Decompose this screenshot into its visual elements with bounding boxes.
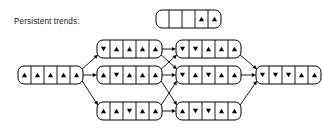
column2-middle-state[interactable] xyxy=(176,66,241,84)
diagram-title-label: Persistent trends: xyxy=(14,17,80,26)
edge-c1-bot-to-c2-bot xyxy=(162,109,176,113)
column1-top-state[interactable] xyxy=(97,40,162,58)
edge-start-to-c1-top xyxy=(82,55,98,69)
persistent-trends-diagram: Persistent trends: xyxy=(0,0,322,137)
legend-node[interactable] xyxy=(156,10,221,28)
edge-c2-mid-to-end xyxy=(241,73,256,77)
edge-c1-top-to-c2-top xyxy=(162,47,176,51)
column1-middle-state[interactable] xyxy=(97,66,162,84)
edge-start-to-c1-bot xyxy=(82,81,98,105)
edge-c2-bot-to-end xyxy=(240,81,257,105)
edge-c2-top-to-end xyxy=(240,55,257,69)
final-state[interactable] xyxy=(256,66,321,84)
column2-bottom-state[interactable] xyxy=(176,102,241,120)
column1-bottom-state[interactable] xyxy=(97,102,162,120)
column2-top-state[interactable] xyxy=(176,40,241,58)
node-layer xyxy=(18,10,321,120)
start-state[interactable] xyxy=(18,66,83,84)
edge-c1-mid-to-c2-mid xyxy=(162,73,176,77)
edge-start-to-c1-mid xyxy=(83,73,97,77)
